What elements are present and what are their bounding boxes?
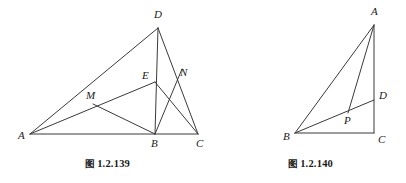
vertex-label-B: B — [283, 130, 290, 142]
vertex-label-B: B — [151, 137, 158, 149]
caption-tag-139: 图 — [85, 158, 95, 169]
segment-A-P — [348, 25, 374, 113]
figure-caption-140: 图1.2.140 — [215, 156, 406, 170]
segment-M-B — [93, 104, 155, 134]
vertex-label-M: M — [85, 89, 96, 101]
figure-caption-139: 图1.2.139 — [0, 156, 215, 170]
vertex-label-A: A — [370, 5, 378, 17]
segment-B-N — [155, 69, 182, 134]
vertex-label-A: A — [17, 129, 25, 141]
figure-sheet: A B C D E M N 图1.2.139 A B C D P — [0, 0, 406, 183]
figure-140-drawing: A B C D P — [215, 0, 406, 155]
segment-D-B — [155, 28, 158, 134]
vertex-label-E: E — [141, 69, 149, 81]
figure-panel-140: A B C D P 图1.2.140 — [215, 0, 406, 183]
caption-number-139: 1.2.139 — [97, 158, 130, 169]
figure-panel-139: A B C D E M N 图1.2.139 — [0, 0, 215, 183]
vertex-label-D: D — [378, 89, 387, 101]
vertex-label-C: C — [378, 133, 386, 145]
vertex-label-P: P — [343, 114, 351, 126]
segment-A-D — [30, 28, 158, 134]
figure-139-drawing: A B C D E M N — [0, 0, 215, 155]
vertex-label-N: N — [179, 66, 188, 78]
caption-tag-140: 图 — [288, 158, 298, 169]
vertex-label-D: D — [153, 8, 162, 20]
caption-number-140: 1.2.140 — [300, 158, 333, 169]
segment-E-C — [155, 82, 198, 134]
segment-D-C — [158, 28, 198, 134]
vertex-label-C: C — [196, 137, 204, 149]
